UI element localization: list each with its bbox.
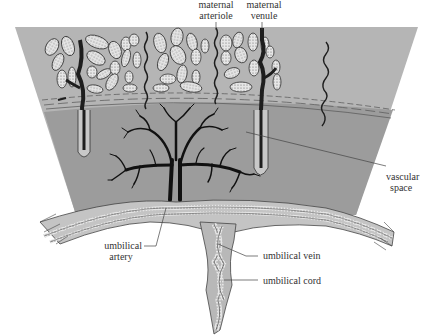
label-umbilical-vein: umbilical vein [263,250,321,261]
umbilical-cord [200,222,236,334]
label-vascular-space-line1: vascular [386,171,419,182]
label-umbilical-artery-line1: umbilical [100,240,142,251]
label-maternal-arteriole-line2: arteriole [192,10,240,21]
label-maternal-venule-line1: maternal [240,0,288,10]
label-maternal-venule-line2: venule [240,10,288,21]
label-vascular-space: vascular space [386,171,419,193]
label-maternal-arteriole-line1: maternal [192,0,240,10]
label-umbilical-artery-line2: artery [100,251,142,262]
vascular-space-region [44,102,393,215]
label-maternal-arteriole: maternal arteriole [192,0,240,21]
label-maternal-venule: maternal venule [240,0,288,21]
label-vascular-space-line2: space [386,182,419,193]
label-umbilical-artery: umbilical artery [100,240,142,262]
label-umbilical-cord: umbilical cord [263,275,321,286]
placenta-diagram [0,0,431,336]
